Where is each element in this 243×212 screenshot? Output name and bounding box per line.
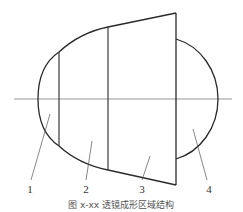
leader-line-1 bbox=[31, 114, 50, 180]
label-region-4: 4 bbox=[206, 183, 212, 195]
leader-line-2 bbox=[86, 141, 92, 180]
top-boundary bbox=[59, 13, 176, 52]
figure-caption: 图 x-xx 透镜成形区域结构 bbox=[68, 199, 174, 210]
label-region-1: 1 bbox=[27, 183, 33, 195]
label-region-2: 2 bbox=[83, 183, 89, 195]
label-region-3: 3 bbox=[139, 183, 145, 195]
leader-line-4 bbox=[193, 129, 207, 180]
leader-line-3 bbox=[142, 156, 150, 180]
bottom-boundary bbox=[59, 146, 176, 185]
lens-region-diagram: 1 2 3 4 图 x-xx 透镜成形区域结构 bbox=[0, 0, 243, 212]
